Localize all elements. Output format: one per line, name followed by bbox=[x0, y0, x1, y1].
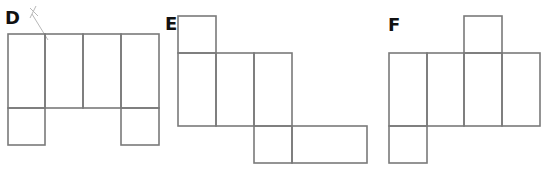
net-f-face-6 bbox=[389, 126, 427, 163]
net-f-face-3 bbox=[427, 53, 464, 126]
net-e-face-5 bbox=[254, 126, 292, 163]
net-e: E bbox=[165, 13, 367, 163]
net-d: D bbox=[5, 7, 159, 145]
net-d-face-6 bbox=[121, 108, 159, 145]
net-d-face-1 bbox=[8, 34, 45, 108]
net-d-face-5 bbox=[8, 108, 45, 145]
net-f-face-1 bbox=[464, 16, 502, 53]
net-e-face-1 bbox=[178, 16, 216, 53]
net-f: F bbox=[388, 14, 540, 163]
net-d-face-3 bbox=[83, 34, 121, 108]
net-label-f: F bbox=[388, 14, 400, 35]
net-e-face-2 bbox=[178, 53, 216, 126]
net-e-face-3 bbox=[216, 53, 254, 126]
net-d-face-2 bbox=[45, 34, 83, 108]
cube-nets-diagram: D E F bbox=[0, 0, 549, 173]
net-e-face-6 bbox=[292, 126, 367, 163]
net-f-face-4 bbox=[464, 53, 502, 126]
net-label-e: E bbox=[165, 13, 177, 34]
net-label-d: D bbox=[5, 7, 20, 28]
net-f-face-2 bbox=[389, 53, 427, 126]
net-d-face-4 bbox=[121, 34, 159, 108]
net-e-face-4 bbox=[254, 53, 292, 126]
net-f-face-5 bbox=[502, 53, 540, 126]
